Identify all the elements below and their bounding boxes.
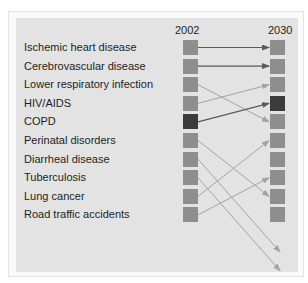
rank-arrow — [198, 103, 269, 122]
rank-arrow — [198, 178, 280, 271]
rank-arrow — [198, 85, 269, 104]
rank-change-arrows — [0, 0, 308, 283]
rank-arrow — [198, 85, 269, 122]
rank-arrow — [198, 178, 269, 215]
